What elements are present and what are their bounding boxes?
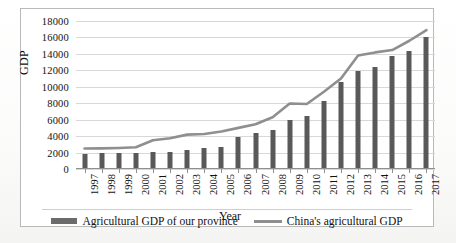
x-axis-tick-label: 2009 bbox=[294, 174, 305, 195]
x-axis-ticks bbox=[76, 169, 435, 173]
y-axis-tick-label: 14000 bbox=[42, 48, 69, 59]
y-axis-tick-label: 2000 bbox=[47, 147, 69, 158]
x-axis-tick bbox=[153, 169, 154, 173]
y-axis-tick-label: 6000 bbox=[47, 114, 69, 125]
line-path bbox=[85, 30, 427, 148]
x-axis-tick-label: 2004 bbox=[208, 174, 219, 195]
x-axis-tick bbox=[221, 169, 222, 173]
x-axis-tick-label: 2000 bbox=[140, 174, 151, 195]
x-axis-tick-label: 1998 bbox=[106, 174, 117, 195]
chart-frame: GDP 180001600014000120001000080006000400… bbox=[20, 8, 434, 227]
plot-area bbox=[76, 21, 435, 169]
legend-item-province: Agricultural GDP of our province bbox=[51, 215, 237, 227]
x-axis-tick-label: 2010 bbox=[311, 174, 322, 195]
x-axis-tick bbox=[273, 169, 274, 173]
legend-label-china: China's agricultural GDP bbox=[287, 215, 403, 227]
x-axis-tick bbox=[102, 169, 103, 173]
x-axis-tick-label: 2007 bbox=[260, 174, 271, 195]
line-series bbox=[76, 21, 435, 169]
x-axis-tick-label: 2008 bbox=[277, 174, 288, 195]
x-axis-tick-label: 2006 bbox=[242, 174, 253, 195]
x-axis-tick-label: 2005 bbox=[225, 174, 236, 195]
x-axis-tick-label: 2003 bbox=[191, 174, 202, 195]
y-axis-tick-label: 16000 bbox=[42, 32, 69, 43]
legend-bar-swatch-icon bbox=[51, 218, 77, 224]
chart-figure: GDP 180001600014000120001000080006000400… bbox=[0, 0, 456, 243]
x-axis-tick bbox=[187, 169, 188, 173]
x-axis-tick bbox=[204, 169, 205, 173]
x-axis-tick bbox=[256, 169, 257, 173]
y-axis-tick-label: 12000 bbox=[42, 65, 69, 76]
x-axis-tick bbox=[358, 169, 359, 173]
x-axis-tick-label: 2011 bbox=[328, 174, 339, 195]
x-axis-tick bbox=[341, 169, 342, 173]
legend-label-province: Agricultural GDP of our province bbox=[82, 215, 237, 227]
x-axis-tick-label: 2002 bbox=[174, 174, 185, 195]
y-axis-tick-label: 8000 bbox=[47, 98, 69, 109]
x-axis-tick bbox=[136, 169, 137, 173]
x-axis-tick bbox=[290, 169, 291, 173]
y-axis-tick-labels: 1800016000140001200010000800060004000200… bbox=[21, 21, 73, 169]
x-axis-tick-label: 1997 bbox=[89, 174, 100, 195]
x-axis-tick bbox=[85, 169, 86, 173]
x-axis-tick bbox=[307, 169, 308, 173]
chart-legend: Agricultural GDP of our province China's… bbox=[21, 212, 433, 230]
y-axis-tick-label: 4000 bbox=[47, 131, 69, 142]
legend-item-china: China's agricultural GDP bbox=[254, 215, 403, 227]
x-axis-tick bbox=[392, 169, 393, 173]
x-axis-tick bbox=[375, 169, 376, 173]
x-axis-tick bbox=[119, 169, 120, 173]
x-axis-tick bbox=[324, 169, 325, 173]
x-axis-tick-label: 1999 bbox=[123, 174, 134, 195]
y-axis-tick-label: 0 bbox=[64, 164, 69, 175]
x-axis-tick bbox=[426, 169, 427, 173]
x-axis-tick-label: 2001 bbox=[157, 174, 168, 195]
legend-divider bbox=[42, 209, 412, 210]
y-axis-tick-label: 18000 bbox=[42, 16, 69, 27]
legend-line-swatch-icon bbox=[254, 220, 282, 223]
x-axis-tick-label: 2012 bbox=[345, 174, 356, 195]
x-axis-tick-label: 2014 bbox=[379, 174, 390, 195]
x-axis-tick bbox=[238, 169, 239, 173]
x-axis-tick-labels: 1997199819992000200120022003200420052006… bbox=[76, 174, 435, 214]
y-axis-tick-label: 10000 bbox=[42, 81, 69, 92]
x-axis-tick bbox=[170, 169, 171, 173]
x-axis-tick-label: 2016 bbox=[413, 174, 424, 195]
x-axis-tick-label: 2013 bbox=[362, 174, 373, 195]
x-axis-tick-label: 2017 bbox=[430, 174, 441, 195]
x-axis-tick bbox=[409, 169, 410, 173]
x-axis-tick-label: 2015 bbox=[396, 174, 407, 195]
